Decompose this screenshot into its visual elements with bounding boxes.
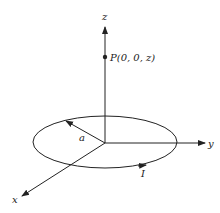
x-axis bbox=[22, 143, 105, 196]
y-axis-label: y bbox=[207, 138, 214, 149]
point-p-label: P(0, 0, z) bbox=[109, 52, 155, 63]
loop-diagram: z y x P(0, 0, z) a I bbox=[0, 0, 220, 213]
current-label: I bbox=[140, 168, 146, 179]
point-p-dot bbox=[103, 55, 107, 59]
z-axis-label: z bbox=[101, 11, 108, 22]
diagram-canvas: z y x P(0, 0, z) a I bbox=[0, 0, 220, 213]
x-axis-label: x bbox=[12, 194, 18, 205]
radius-arrow bbox=[66, 121, 105, 143]
radius-label: a bbox=[79, 132, 85, 143]
